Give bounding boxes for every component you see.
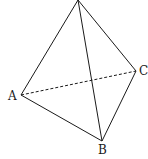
vertex-label-a: A	[7, 89, 17, 103]
edge-apex-b	[78, 0, 102, 141]
hidden-edge-a-c	[21, 71, 136, 95]
edge-apex-a	[21, 0, 78, 95]
tetrahedron-diagram: A C B	[0, 0, 148, 159]
vertex-label-b: B	[98, 143, 107, 157]
edge-a-b	[21, 95, 102, 141]
edge-b-c	[102, 71, 136, 141]
vertex-label-c: C	[139, 64, 148, 78]
edge-apex-c	[78, 0, 136, 71]
